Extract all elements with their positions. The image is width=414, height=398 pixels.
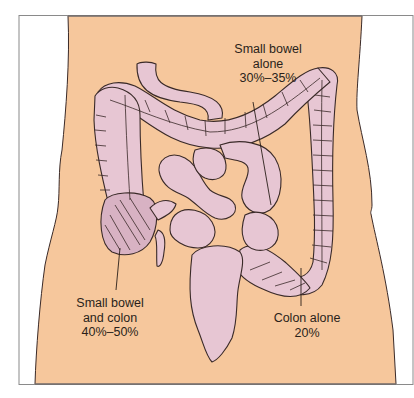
label-small-bowel-and-colon-line3: 40%–50% xyxy=(50,325,170,340)
label-small-bowel-alone: Small bowel alone 30%–35% xyxy=(213,42,323,86)
label-colon-alone: Colon alone 20% xyxy=(262,311,352,340)
label-small-bowel-and-colon-line2: and colon xyxy=(50,311,170,326)
label-small-bowel-and-colon-line1: Small bowel xyxy=(50,296,170,311)
label-small-bowel-alone-line1: Small bowel xyxy=(213,42,323,57)
label-small-bowel-alone-line2: alone xyxy=(213,57,323,72)
label-small-bowel-and-colon: Small bowel and colon 40%–50% xyxy=(50,296,170,340)
label-colon-alone-line1: Colon alone xyxy=(262,311,352,326)
label-colon-alone-line2: 20% xyxy=(262,326,352,341)
label-small-bowel-alone-line3: 30%–35% xyxy=(213,71,323,86)
